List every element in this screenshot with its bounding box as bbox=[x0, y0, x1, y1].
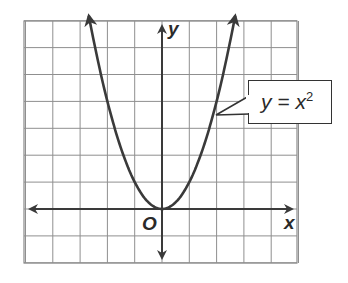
equation-label: y = x2 bbox=[261, 89, 313, 114]
grid-border bbox=[24, 21, 297, 263]
coordinate-plane bbox=[0, 0, 348, 283]
origin-label: O bbox=[142, 213, 157, 235]
equation-callout: y = x2 bbox=[248, 80, 332, 124]
y-axis-label: y bbox=[168, 18, 179, 40]
x-axis-label: x bbox=[284, 212, 295, 234]
